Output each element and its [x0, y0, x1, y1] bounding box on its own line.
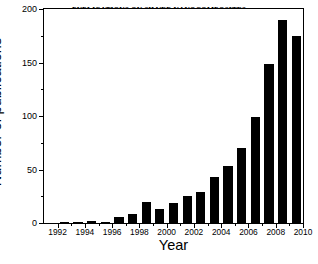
- x-minor-tick-1995: [99, 223, 100, 226]
- y-tick-0: [39, 223, 44, 224]
- y-minor-tick-25: [41, 196, 44, 197]
- bar-2004: [223, 166, 232, 223]
- y-tick-label-100: 100: [22, 111, 37, 121]
- y-tick-label-50: 50: [27, 165, 37, 175]
- x-minor-tick-2001: [180, 223, 181, 226]
- x-tick-label-2002: 2002: [185, 227, 204, 237]
- x-tick-label-2008: 2008: [266, 227, 285, 237]
- bar-2001: [183, 196, 192, 223]
- y-tick-100: [39, 116, 44, 117]
- x-tick-label-1996: 1996: [103, 227, 122, 237]
- chart-page: PUBLICATIONS ON SILVER NANOCOMPOSITES (I…: [0, 0, 318, 264]
- x-tick-label-2006: 2006: [239, 227, 258, 237]
- bar-2008: [278, 20, 287, 223]
- x-minor-tick-1997: [126, 223, 127, 226]
- y-minor-tick-75: [41, 143, 44, 144]
- x-minor-tick-2009: [289, 223, 290, 226]
- x-tick-label-2000: 2000: [157, 227, 176, 237]
- y-minor-tick-175: [41, 36, 44, 37]
- x-minor-tick-2005: [235, 223, 236, 226]
- x-minor-tick-2007: [262, 223, 263, 226]
- y-tick-label-0: 0: [32, 218, 37, 228]
- bar-2009: [292, 36, 301, 223]
- y-tick-200: [39, 9, 44, 10]
- y-tick-label-200: 200: [22, 4, 37, 14]
- bar-1994: [87, 221, 96, 223]
- y-tick-150: [39, 63, 44, 64]
- bar-2006: [251, 117, 260, 223]
- bars-layer: [44, 9, 303, 223]
- bar-2007: [264, 64, 273, 223]
- x-minor-tick-1993: [71, 223, 72, 226]
- bar-2002: [196, 192, 205, 223]
- y-tick-label-150: 150: [22, 58, 37, 68]
- bar-2005: [237, 148, 246, 223]
- bar-2000: [169, 203, 178, 223]
- x-tick-label-1998: 1998: [130, 227, 149, 237]
- bar-1996: [114, 217, 123, 223]
- plot-area: 050100150200 199219941996199820002002200…: [43, 8, 304, 224]
- x-axis-title: Year: [159, 237, 188, 253]
- x-minor-tick-2003: [208, 223, 209, 226]
- bar-2003: [210, 177, 219, 223]
- bar-1997: [128, 214, 137, 223]
- bar-1995: [101, 222, 110, 223]
- bar-1998: [142, 202, 151, 223]
- y-minor-tick-125: [41, 89, 44, 90]
- bar-1992: [60, 222, 69, 223]
- x-tick-label-2010: 2010: [294, 227, 313, 237]
- x-tick-label-1992: 1992: [48, 227, 67, 237]
- y-axis-title: Number of publications: [0, 38, 4, 186]
- bar-1999: [155, 209, 164, 223]
- y-tick-50: [39, 170, 44, 171]
- x-tick-label-1994: 1994: [76, 227, 95, 237]
- bar-1993: [73, 222, 82, 223]
- x-tick-label-2004: 2004: [212, 227, 231, 237]
- x-minor-tick-1999: [153, 223, 154, 226]
